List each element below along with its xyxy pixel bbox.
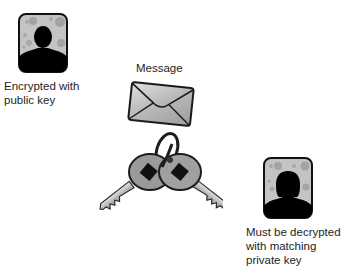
key-pair-icon — [98, 130, 223, 220]
key-pair — [98, 130, 223, 220]
envelope-icon — [125, 80, 197, 128]
message-label: Message — [136, 61, 183, 75]
sender-avatar — [18, 13, 68, 73]
recipient-caption: Must be decrypted with matching private … — [246, 225, 341, 267]
recipient-avatar — [263, 157, 313, 219]
male-user-avatar-icon — [18, 13, 68, 73]
message-envelope — [125, 80, 197, 128]
female-user-avatar-icon — [263, 157, 313, 219]
sender-caption: Encrypted with public key — [4, 79, 79, 107]
